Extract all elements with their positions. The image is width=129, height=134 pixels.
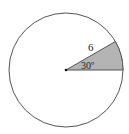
center-point — [65, 69, 68, 72]
circle-diagram: 6 30º — [0, 0, 129, 134]
radius-label: 6 — [88, 41, 94, 53]
angle-label: 30º — [81, 60, 94, 71]
